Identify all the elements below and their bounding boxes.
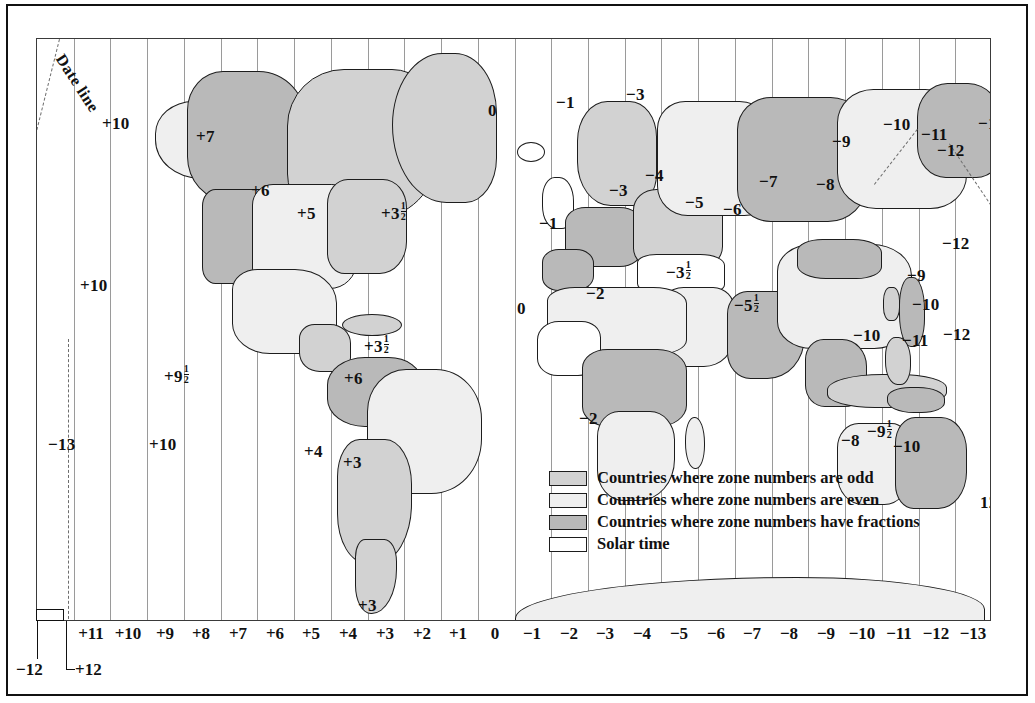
zone-label-7: +912: [164, 364, 189, 387]
zone-label-40: −912: [867, 419, 892, 442]
axis-tick-24: −13: [960, 624, 987, 644]
axis-tick-20: −9: [817, 624, 835, 644]
zone-label-value-17: −9: [832, 132, 851, 151]
zone-label-41: −8: [841, 431, 860, 451]
zone-label-4: +312: [381, 201, 406, 224]
legend-solar-label: Solar time: [597, 534, 670, 554]
zone-label-value-35: −10: [912, 295, 940, 314]
axis-tick-13: −2: [560, 624, 578, 644]
zone-label-10: +10: [149, 435, 177, 455]
zone-label-value-32: −2: [586, 284, 605, 303]
zone-label-value-20: −13: [978, 114, 991, 133]
map-legend: Countries where zone numbers are oddCoun…: [549, 467, 920, 555]
axis-tick-4: +7: [229, 624, 247, 644]
gridline-3: [147, 39, 148, 620]
zone-label-22: −4: [645, 166, 664, 186]
zone-label-value-8: +6: [344, 369, 363, 388]
legend-even-swatch: [549, 493, 587, 508]
zone-label-value-34: −5: [734, 296, 753, 315]
zone-label-value-11: +4: [304, 442, 323, 461]
zone-label-43: 12: [980, 493, 991, 513]
zone-label-16: −3: [626, 85, 645, 105]
zone-label-value-9: −13: [48, 435, 76, 454]
zone-label-12: +3: [343, 453, 362, 473]
zone-label-39: −2: [579, 409, 598, 429]
zone-label-fraction-6: 12: [384, 334, 389, 354]
zone-label-35: −10: [912, 295, 940, 315]
axis-notch-box: [36, 609, 64, 621]
zone-label-value-7: +9: [164, 367, 183, 386]
legend-fractions-label: Countries where zone numbers have fracti…: [597, 512, 920, 532]
landmass-madagascar: [685, 417, 705, 469]
zone-label-18: −10: [883, 115, 911, 135]
zone-label-value-6: +3: [364, 337, 383, 356]
axis-tick-16: −5: [670, 624, 688, 644]
zone-label-38: −12: [943, 325, 971, 345]
axis-tick-18: −7: [743, 624, 761, 644]
landmass-caribbean: [342, 314, 402, 336]
zone-label-fraction-4: 12: [401, 201, 406, 221]
zone-label-6: +312: [364, 334, 389, 357]
zone-label-fraction-40: 12: [887, 419, 892, 439]
legend-fractions: Countries where zone numbers have fracti…: [549, 511, 920, 533]
zone-label-2: +6: [251, 181, 270, 201]
axis-tick-23: −12: [923, 624, 950, 644]
zone-label-5: +10: [80, 276, 108, 296]
zone-label-29: −12: [942, 234, 970, 254]
zone-label-14: 0: [488, 101, 497, 121]
zone-label-value-40: −9: [867, 422, 886, 441]
zone-label-21: −12: [937, 141, 965, 161]
legend-even: Countries where zone numbers are even: [549, 489, 920, 511]
zone-label-value-41: −8: [841, 431, 860, 450]
axis-tick-2: +9: [156, 624, 174, 644]
legend-odd-label: Countries where zone numbers are odd: [597, 468, 874, 488]
zone-label-value-36: −10: [853, 326, 881, 345]
zone-label-value-21: −12: [937, 141, 965, 160]
zone-label-value-29: −12: [942, 234, 970, 253]
zone-label-value-38: −12: [943, 325, 971, 344]
axis-tick-19: −8: [780, 624, 798, 644]
zone-label-20: −13: [978, 114, 991, 134]
zone-label-17: −9: [832, 132, 851, 152]
zone-label-value-16: −3: [626, 85, 645, 104]
axis-tick-15: −4: [633, 624, 651, 644]
zone-label-value-2: +6: [251, 181, 270, 200]
legend-fractions-swatch: [549, 515, 587, 530]
zone-label-value-10: +10: [149, 435, 177, 454]
axis-tick-9: +2: [413, 624, 431, 644]
zone-label-8: +6: [344, 369, 363, 389]
legend-solar: Solar time: [549, 533, 920, 555]
axis-tick-0: +11: [78, 624, 104, 644]
landmass-greenland: [392, 53, 497, 203]
axis-tick-7: +4: [339, 624, 357, 644]
date-line-west-lower: [68, 339, 69, 621]
zone-label-value-23: −3: [609, 181, 628, 200]
minus12-bracket: [37, 621, 38, 659]
plus12-bracket: [66, 621, 67, 669]
zone-label-32: −2: [586, 284, 605, 304]
legend-odd: Countries where zone numbers are odd: [549, 467, 920, 489]
axis-tick-21: −10: [849, 624, 876, 644]
zone-label-1: +7: [196, 127, 215, 147]
zone-label-23: −3: [609, 181, 628, 201]
zone-label-value-5: +10: [80, 276, 108, 295]
axis-tick-10: +1: [449, 624, 467, 644]
axis-tick-11: 0: [491, 624, 500, 644]
legend-odd-swatch: [549, 471, 587, 486]
zone-label-0: +10: [102, 114, 130, 134]
zone-label-28: −1: [539, 214, 558, 234]
zone-label-value-1: +7: [196, 127, 215, 146]
zone-label-27: −8: [816, 175, 835, 195]
landmass-png: [887, 387, 945, 413]
gridline-1: [74, 39, 75, 620]
zone-label-36: −10: [853, 326, 881, 346]
zone-label-11: +4: [304, 442, 323, 462]
zone-label-value-18: −10: [883, 115, 911, 134]
axis-tick-3: +8: [192, 624, 210, 644]
zone-label-value-39: −2: [579, 409, 598, 428]
zone-label-value-26: −7: [759, 172, 778, 191]
axis-tick-8: +3: [376, 624, 394, 644]
landmass-mongolia: [797, 239, 882, 279]
legend-solar-swatch: [549, 537, 587, 552]
axis-tick-6: +5: [302, 624, 320, 644]
